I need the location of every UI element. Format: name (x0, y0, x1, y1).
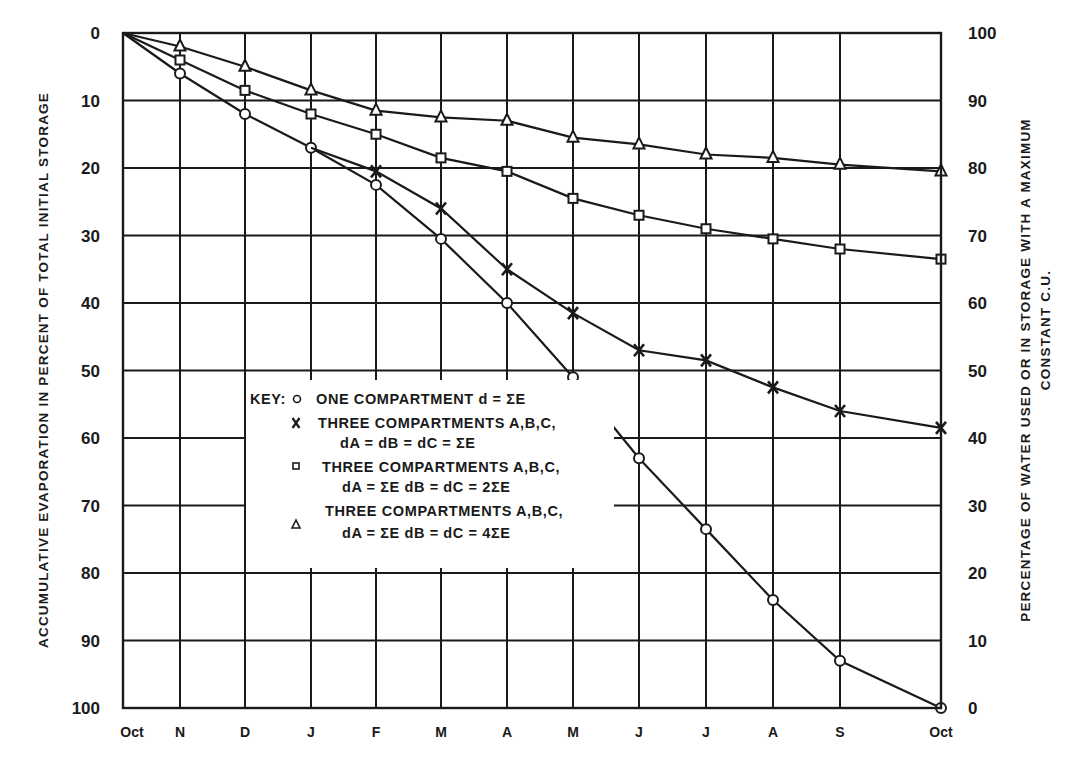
y-tick-left: 10 (81, 92, 100, 111)
y-tick-right: 90 (968, 92, 987, 111)
circle-marker-icon (175, 69, 185, 79)
legend-entry-line2: dA = ΣE dB = dC = 2ΣE (342, 479, 510, 495)
legend-entry-line1: THREE COMPARTMENTS A,B,C, (322, 459, 560, 475)
square-marker-icon (372, 130, 381, 139)
x-tick-month: J (702, 724, 710, 740)
square-marker-icon (702, 224, 711, 233)
x-tick-month: J (307, 724, 315, 740)
triangle-marker-icon (768, 151, 779, 162)
square-marker-icon (307, 110, 316, 119)
triangle-marker-icon (634, 137, 645, 148)
triangle-marker-icon (175, 40, 186, 51)
legend-entry-line2: dA = dB = dC = ΣE (340, 435, 476, 451)
y-tick-left: 20 (81, 159, 100, 178)
chart-canvas: 0102030405060708090100100908070605040302… (0, 0, 1071, 765)
series-circle (123, 33, 946, 713)
triangle-marker-icon (240, 60, 251, 71)
circle-marker-icon (701, 524, 711, 534)
legend-entry-line1: THREE COMPARTMENTS A,B,C, (318, 415, 556, 431)
grid-lines (123, 33, 941, 708)
y-tick-right: 50 (968, 362, 987, 381)
y-tick-left: 90 (81, 632, 100, 651)
y-tick-right: 0 (968, 699, 977, 718)
circle-marker-icon (835, 656, 845, 666)
y-tick-left: 100 (72, 699, 100, 718)
y-tick-left: 30 (81, 227, 100, 246)
x-tick-month: D (240, 724, 250, 740)
x-tick-month: N (175, 724, 185, 740)
square-marker-icon (176, 56, 185, 65)
y-tick-right: 80 (968, 159, 987, 178)
x-tick-month: Oct (929, 724, 953, 740)
legend-entry-line1: THREE COMPARTMENTS A,B,C, (325, 503, 563, 519)
y-tick-right: 20 (968, 564, 987, 583)
circle-marker-icon (634, 453, 644, 463)
circle-marker-icon (294, 396, 301, 403)
square-marker-icon (503, 167, 512, 176)
circle-marker-icon (436, 234, 446, 244)
y-tick-left: 50 (81, 362, 100, 381)
square-marker-icon (635, 211, 644, 220)
triangle-marker-icon (502, 114, 513, 125)
x-tick-month: S (835, 724, 844, 740)
x-tick-month: Oct (120, 724, 144, 740)
triangle-marker-icon (701, 148, 712, 159)
square-marker-icon (241, 86, 250, 95)
x-tick-month: A (502, 724, 512, 740)
y-tick-right: 40 (968, 429, 987, 448)
y-tick-right: 30 (968, 497, 987, 516)
y-axis-title-right-line2: CONSTANT C.U. (1038, 270, 1053, 390)
circle-marker-icon (371, 180, 381, 190)
triangle-marker-icon (371, 104, 382, 115)
data-series (123, 33, 947, 713)
y-axis-title-right-line1: PERCENTAGE OF WATER USED OR IN STORAGE W… (1018, 118, 1033, 622)
square-marker-icon (769, 234, 778, 243)
y-tick-right: 70 (968, 227, 987, 246)
y-axis-title-left: ACCUMULATIVE EVAPORATION IN PERCENT OF T… (36, 92, 51, 648)
square-marker-icon (569, 194, 578, 203)
legend-entry-line1: ONE COMPARTMENT d = ΣE (316, 391, 526, 407)
triangle-marker-icon (306, 83, 317, 94)
circle-marker-icon (502, 298, 512, 308)
x-tick-month: M (435, 724, 447, 740)
series-triangle (123, 33, 947, 175)
y-tick-left: 40 (81, 294, 100, 313)
triangle-marker-icon (835, 158, 846, 169)
y-tick-left: 60 (81, 429, 100, 448)
x-tick-month: F (372, 724, 381, 740)
x-tick-month: J (635, 724, 643, 740)
x-tick-month: A (768, 724, 778, 740)
triangle-marker-icon (568, 131, 579, 142)
legend-entry-circle: ONE COMPARTMENT d = ΣE (294, 391, 526, 407)
legend-entry-line2: dA = ΣE dB = dC = 4ΣE (342, 525, 510, 541)
square-marker-icon (437, 153, 446, 162)
square-marker-icon (293, 463, 299, 469)
legend-key-label: KEY: (250, 391, 286, 407)
y-tick-left: 0 (91, 24, 100, 43)
x-tick-month: M (567, 724, 579, 740)
y-tick-right: 100 (968, 24, 996, 43)
circle-marker-icon (240, 109, 250, 119)
square-marker-icon (836, 245, 845, 254)
y-tick-right: 60 (968, 294, 987, 313)
y-tick-left: 80 (81, 564, 100, 583)
triangle-marker-icon (436, 110, 447, 121)
y-tick-left: 70 (81, 497, 100, 516)
y-tick-right: 10 (968, 632, 987, 651)
evaporation-chart: 0102030405060708090100100908070605040302… (0, 0, 1071, 765)
circle-marker-icon (768, 595, 778, 605)
